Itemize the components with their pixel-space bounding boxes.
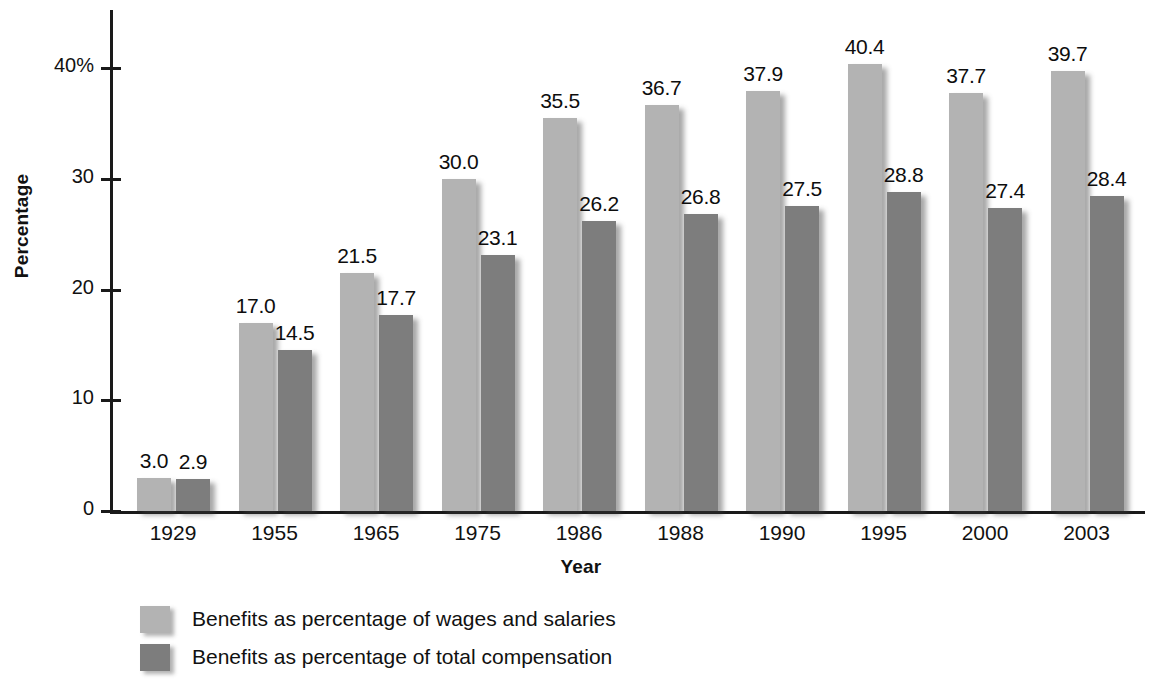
bar-group: 37.727.4 [949, 10, 1023, 511]
bar-value-label: 2.9 [179, 450, 207, 474]
bar-value-label: 14.5 [275, 321, 315, 345]
bar-value-label: 23.1 [478, 226, 518, 250]
bar-2000-series-0[interactable]: 37.7 [949, 93, 983, 511]
bar-group: 3.02.9 [137, 10, 211, 511]
bar-1929-series-1[interactable]: 2.9 [176, 479, 210, 511]
bar-1990-series-1[interactable]: 27.5 [785, 206, 819, 511]
bar-1995-series-1[interactable]: 28.8 [887, 192, 921, 511]
bar-group: 37.927.5 [746, 10, 820, 511]
bar-group: 17.014.5 [239, 10, 313, 511]
bar-value-label: 28.8 [884, 163, 924, 187]
bar-2003-series-1[interactable]: 28.4 [1090, 196, 1124, 511]
bar-group: 21.517.7 [340, 10, 414, 511]
bar-1975-series-0[interactable]: 30.0 [442, 179, 476, 511]
bar-1995-series-0[interactable]: 40.4 [848, 64, 882, 511]
bar-1965-series-0[interactable]: 21.5 [340, 273, 374, 511]
bar-1955-series-1[interactable]: 14.5 [278, 350, 312, 511]
legend-item[interactable]: Benefits as percentage of total compensa… [140, 640, 616, 674]
y-axis-tick-label: 10 [4, 386, 94, 409]
bar-value-label: 28.4 [1087, 167, 1127, 191]
bar-1955-series-0[interactable]: 17.0 [239, 323, 273, 511]
bar-value-label: 17.7 [376, 286, 416, 310]
legend-swatch-series-0 [140, 606, 170, 633]
bar-value-label: 36.7 [642, 76, 682, 100]
bar-value-label: 27.4 [985, 179, 1025, 203]
bar-2000-series-1[interactable]: 27.4 [988, 208, 1022, 511]
x-axis-line [110, 511, 1145, 514]
bar-1929-series-0[interactable]: 3.0 [137, 478, 171, 511]
x-axis-tick-label: 2003 [1027, 521, 1147, 545]
plot-area: 3.02.917.014.521.517.730.023.135.526.236… [113, 10, 1145, 511]
bar-group: 36.726.8 [645, 10, 719, 511]
bar-value-label: 27.5 [782, 177, 822, 201]
chart-legend: Benefits as percentage of wages and sala… [140, 602, 616, 678]
bar-value-label: 39.7 [1048, 42, 1088, 66]
y-axis-tick-label: 30 [4, 165, 94, 188]
bar-value-label: 17.0 [236, 294, 276, 318]
bar-group: 39.728.4 [1051, 10, 1125, 511]
bar-group: 40.428.8 [848, 10, 922, 511]
bar-1988-series-1[interactable]: 26.8 [684, 214, 718, 511]
bar-value-label: 26.2 [579, 192, 619, 216]
bar-1988-series-0[interactable]: 36.7 [645, 105, 679, 511]
y-axis-tick-label: 0 [4, 497, 94, 520]
bar-value-label: 30.0 [439, 150, 479, 174]
legend-label: Benefits as percentage of wages and sala… [192, 607, 616, 631]
legend-item[interactable]: Benefits as percentage of wages and sala… [140, 602, 616, 636]
legend-label: Benefits as percentage of total compensa… [192, 645, 612, 669]
y-axis-tick-label: 20 [4, 276, 94, 299]
bar-1990-series-0[interactable]: 37.9 [746, 91, 780, 511]
bar-1965-series-1[interactable]: 17.7 [379, 315, 413, 511]
bar-1986-series-1[interactable]: 26.2 [582, 221, 616, 511]
bar-value-label: 35.5 [540, 89, 580, 113]
x-axis-title: Year [0, 556, 1162, 578]
bar-value-label: 37.7 [946, 64, 986, 88]
legend-swatch-series-1 [140, 644, 170, 671]
bar-chart: Percentage 010203040% 3.02.917.014.521.5… [0, 0, 1162, 684]
bar-group: 35.526.2 [543, 10, 617, 511]
y-axis-tick-label: 40% [4, 54, 94, 77]
bar-value-label: 26.8 [681, 185, 721, 209]
bar-value-label: 21.5 [337, 244, 377, 268]
bar-2003-series-0[interactable]: 39.7 [1051, 71, 1085, 511]
bar-1975-series-1[interactable]: 23.1 [481, 255, 515, 511]
bar-value-label: 3.0 [140, 449, 168, 473]
bar-1986-series-0[interactable]: 35.5 [543, 118, 577, 511]
bar-value-label: 40.4 [845, 35, 885, 59]
bar-value-label: 37.9 [743, 62, 783, 86]
bar-group: 30.023.1 [442, 10, 516, 511]
